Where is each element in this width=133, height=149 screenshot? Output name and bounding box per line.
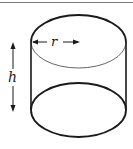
arrowhead-down-icon: [11, 105, 16, 112]
radius-label: r: [51, 34, 58, 49]
cylinder-diagram: r h: [0, 0, 133, 149]
arrowhead-up-icon: [11, 42, 16, 49]
bottom-ellipse: [31, 83, 126, 137]
top-ellipse-back: [31, 15, 126, 42]
arrowhead-right-icon: [73, 40, 80, 45]
top-ellipse-front: [31, 42, 126, 68]
height-label: h: [8, 69, 17, 85]
arrowhead-left-icon: [32, 40, 38, 45]
